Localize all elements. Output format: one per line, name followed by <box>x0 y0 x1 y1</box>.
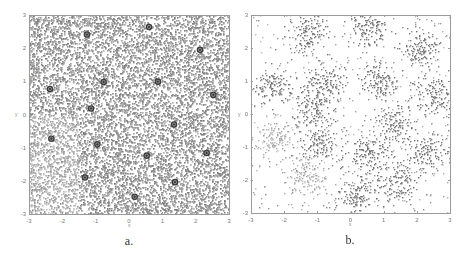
scatter-plot-b <box>251 15 451 214</box>
x-tick-label: -3 <box>26 218 31 224</box>
x-axis-label-b: x <box>349 221 352 227</box>
y-tick-label: -2 <box>238 177 248 183</box>
y-tick-label: 3 <box>16 12 26 18</box>
x-tick-label: 3 <box>448 217 451 223</box>
x-tick-label: 1 <box>161 218 164 224</box>
x-tick-label: -1 <box>93 218 98 224</box>
y-tick-label: 2 <box>238 45 248 51</box>
y-tick-label: -3 <box>238 210 248 216</box>
y-axis-label-b: y <box>238 111 241 117</box>
y-tick-label: -1 <box>238 144 248 150</box>
scatter-plot-a <box>29 15 230 215</box>
x-tick-label: -2 <box>60 218 65 224</box>
y-tick-label: -1 <box>16 145 26 151</box>
y-tick-label: -3 <box>16 211 26 217</box>
x-tick-label: 2 <box>415 217 418 223</box>
y-tick-label: 3 <box>238 12 248 18</box>
panel-a: 3210-1-2-3 -3-2-10123 x y a. <box>0 0 234 254</box>
y-tick-label: 2 <box>16 45 26 51</box>
y-tick-label: -2 <box>16 178 26 184</box>
caption-b: b. <box>346 233 355 248</box>
panel-b: 3210-1-2-3 -3-2-10123 x y b. <box>226 0 460 254</box>
x-tick-label: -2 <box>281 217 286 223</box>
x-tick-label: 1 <box>382 217 385 223</box>
y-axis-label-a: y <box>15 111 18 117</box>
y-tick-label: 1 <box>238 78 248 84</box>
x-axis-label-a: x <box>128 222 131 228</box>
x-tick-label: 2 <box>194 218 197 224</box>
caption-a: a. <box>125 234 133 249</box>
y-tick-label: 1 <box>16 78 26 84</box>
x-tick-label: -1 <box>315 217 320 223</box>
x-tick-label: -3 <box>248 217 253 223</box>
